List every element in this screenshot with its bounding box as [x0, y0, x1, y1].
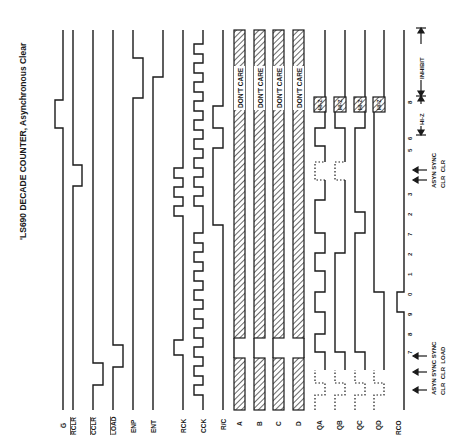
hi-z-label-qc: HI-Z — [357, 99, 363, 110]
label-cclr: CCLR — [90, 417, 97, 435]
label-b: B — [256, 421, 263, 426]
signal-rck-waveform — [174, 30, 183, 410]
label-enp: ENP — [130, 419, 137, 433]
signal-rc-waveform — [213, 30, 223, 410]
timing-diagram: 'LS690 DECADE COUNTER, Asynchronous Clea… — [0, 0, 469, 442]
hi-z-span-label: HI-Z — [419, 113, 425, 125]
diagram-title: 'LS690 DECADE COUNTER, Asynchronous Clea… — [18, 42, 28, 240]
count-2a: 2 — [407, 252, 413, 256]
count-7a: 7 — [407, 350, 413, 354]
inhibit-span-label: INHIBIT — [419, 57, 425, 79]
arrow-icons-group1 — [413, 353, 427, 393]
label-qa: QA — [316, 420, 324, 430]
label-g: G̅ — [60, 423, 67, 428]
count-0: 0 — [407, 292, 413, 296]
signal-g-waveform — [55, 30, 63, 410]
signal-rclr-waveform — [73, 30, 82, 410]
annotation-group2-line2: CLR CLR — [440, 159, 446, 188]
signal-cclr-waveform — [93, 30, 103, 410]
signal-cck-waveform — [194, 30, 203, 410]
signal-qc — [354, 30, 366, 410]
annotation-group1-line2: CLR CLR LOAD — [440, 346, 446, 395]
hi-z-label-qd: HI-Z — [376, 99, 382, 110]
label-qd: QD — [375, 420, 383, 430]
label-load: LOAD — [110, 416, 117, 435]
count-2b: 2 — [407, 212, 413, 216]
dont-care-label-b: DON'T CARE — [257, 67, 264, 108]
arrow-icons-group2 — [413, 167, 427, 183]
label-rck: RCK — [180, 419, 187, 433]
label-qb: QB — [336, 420, 344, 430]
signal-ent-waveform — [153, 30, 163, 410]
count-5: 5 — [407, 148, 413, 152]
label-d: D — [295, 421, 302, 426]
count-8a: 8 — [407, 332, 413, 336]
label-qc: QC — [356, 420, 364, 430]
label-ent: ENT — [150, 420, 157, 433]
hi-z-label-qa: HI-Z — [317, 99, 323, 110]
count-8b: 8 — [407, 100, 413, 104]
label-c: C — [275, 421, 282, 426]
label-cck: CCK — [200, 419, 207, 433]
count-3: 3 — [407, 192, 413, 196]
count-6: 6 — [407, 136, 413, 140]
signal-load-waveform — [113, 30, 123, 410]
label-a: A — [236, 421, 243, 426]
label-rco: RCO — [395, 421, 402, 435]
label-rc: R/C — [220, 419, 227, 431]
count-9: 9 — [407, 312, 413, 316]
label-rclr: RCLR — [70, 417, 77, 435]
signal-enp-waveform — [133, 30, 143, 410]
signal-qa — [314, 30, 326, 410]
dont-care-label-c: DON'T CARE — [276, 67, 283, 108]
count-1: 1 — [407, 272, 413, 276]
signal-rco-waveform — [397, 30, 404, 410]
signal-qb — [334, 30, 346, 410]
annotation-group1-line1: ASYN SYNC SYNC — [431, 341, 437, 395]
hi-z-label-qb: HI-Z — [337, 99, 343, 110]
count-7b: 7 — [407, 232, 413, 236]
annotation-group2-line1: ASYN SYNC — [431, 152, 437, 188]
dont-care-label-d: DON'T CARE — [296, 67, 303, 108]
signal-qd — [373, 30, 385, 410]
dont-care-label-a: DON'T CARE — [237, 67, 244, 108]
